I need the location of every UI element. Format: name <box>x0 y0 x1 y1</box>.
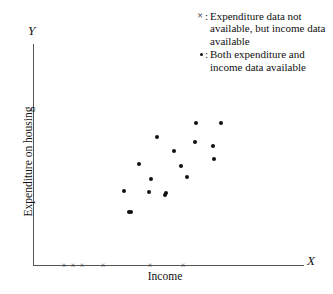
data-point <box>194 121 198 125</box>
data-point <box>212 157 216 161</box>
x-axis-cross-marker <box>61 262 68 269</box>
data-point <box>211 144 215 148</box>
x-axis-cross-marker <box>100 262 107 269</box>
legend-item-label: Expenditure data not available, but inco… <box>210 10 333 47</box>
data-point <box>179 164 183 168</box>
data-point <box>137 162 141 166</box>
data-point <box>122 189 126 193</box>
data-point <box>127 210 131 214</box>
x-axis-cross-marker <box>79 262 86 269</box>
y-axis-letter: Y <box>28 24 35 37</box>
legend: × : Expenditure data not available, but … <box>190 10 333 74</box>
x-axis-cross-marker <box>147 262 154 269</box>
cross-icon: × <box>190 10 205 22</box>
data-point <box>163 193 167 197</box>
y-axis-title: Expenditure on housing <box>22 77 35 247</box>
data-point <box>149 177 153 181</box>
x-axis-letter: X <box>307 254 315 267</box>
data-point <box>193 140 197 144</box>
x-axis-cross-marker <box>180 262 187 269</box>
data-point <box>147 190 151 194</box>
data-point <box>219 121 223 125</box>
dot-icon <box>190 48 205 60</box>
x-axis-title: Income <box>120 270 210 283</box>
legend-item-cross: × : Expenditure data not available, but … <box>190 10 333 47</box>
legend-item-label: Both expenditure and income data availab… <box>210 48 333 73</box>
data-point <box>155 135 159 139</box>
scatter-plot-figure: Y X Expenditure on housing Income × : Ex… <box>0 0 333 294</box>
data-point <box>185 175 189 179</box>
x-axis-cross-marker <box>70 262 77 269</box>
data-point <box>172 149 176 153</box>
legend-item-dot: : Both expenditure and income data avail… <box>190 48 333 73</box>
